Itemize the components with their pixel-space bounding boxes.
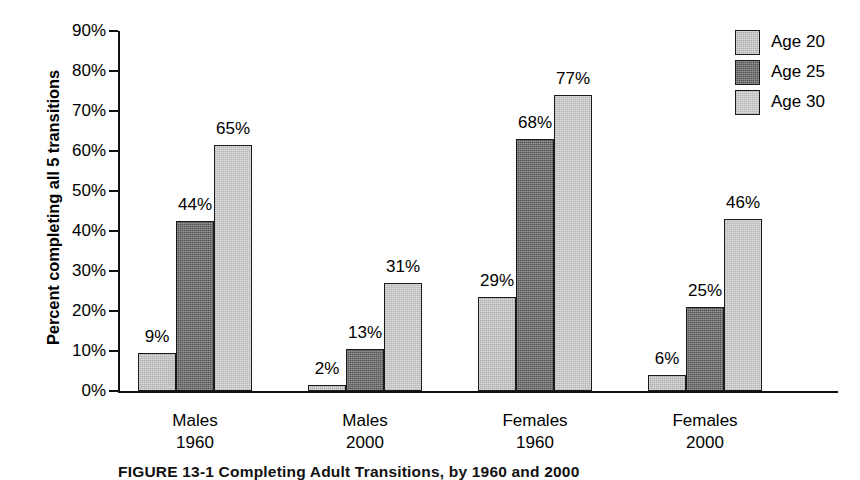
figure-container: Percent completing all 5 transitions 0%1… bbox=[0, 0, 860, 480]
y-axis-tick-mark bbox=[109, 110, 118, 112]
y-axis-tick-mark bbox=[109, 310, 118, 312]
x-axis-category-label-line: 1960 bbox=[502, 432, 567, 454]
bar-value-label: 44% bbox=[178, 195, 212, 215]
bar bbox=[686, 307, 724, 391]
chart-legend: Age 20Age 25Age 30 bbox=[735, 27, 825, 117]
bar-value-label: 13% bbox=[348, 323, 382, 343]
y-axis-tick-mark bbox=[109, 350, 118, 352]
bar-value-label: 31% bbox=[386, 257, 420, 277]
x-axis-category-label: Females1960 bbox=[502, 410, 567, 455]
x-axis-category-label-line: 2000 bbox=[672, 432, 737, 454]
bar bbox=[308, 385, 346, 391]
bar-value-label: 46% bbox=[726, 193, 760, 213]
bar bbox=[176, 221, 214, 391]
y-axis-tick-label: 20% bbox=[72, 301, 106, 321]
y-axis-tick-mark bbox=[109, 190, 118, 192]
x-axis-line bbox=[118, 391, 838, 393]
x-axis-category-label-line: 2000 bbox=[342, 432, 387, 454]
bar-value-label: 25% bbox=[688, 281, 722, 301]
y-axis-tick-label: 30% bbox=[72, 261, 106, 281]
x-axis-category-label-line: Females bbox=[672, 410, 737, 432]
y-axis-tick-label: 0% bbox=[81, 381, 106, 401]
bar bbox=[384, 283, 422, 391]
y-axis-tick-label: 60% bbox=[72, 141, 106, 161]
x-axis-category-label: Males2000 bbox=[342, 410, 387, 455]
legend-item[interactable]: Age 25 bbox=[735, 57, 825, 87]
bar bbox=[478, 297, 516, 391]
bar-value-label: 2% bbox=[315, 359, 340, 379]
legend-item[interactable]: Age 30 bbox=[735, 87, 825, 117]
bar bbox=[214, 145, 252, 391]
legend-swatch-icon bbox=[735, 30, 760, 55]
figure-caption: FIGURE 13-1 Completing Adult Transitions… bbox=[118, 463, 580, 480]
bar-value-label: 68% bbox=[518, 113, 552, 133]
bar-value-label: 29% bbox=[480, 271, 514, 291]
bar-value-label: 77% bbox=[556, 69, 590, 89]
bar-value-label: 6% bbox=[655, 349, 680, 369]
legend-swatch-icon bbox=[735, 90, 760, 115]
x-axis-category-label: Females2000 bbox=[672, 410, 737, 455]
y-axis-tick-label: 90% bbox=[72, 21, 106, 41]
bar-value-label: 65% bbox=[216, 119, 250, 139]
legend-label: Age 30 bbox=[771, 92, 825, 112]
x-axis-category-label-line: Males bbox=[342, 410, 387, 432]
y-axis-tick-label: 50% bbox=[72, 181, 106, 201]
x-axis-category-label-line: 1960 bbox=[172, 432, 217, 454]
y-axis-tick-mark bbox=[109, 30, 118, 32]
bar bbox=[516, 139, 554, 391]
x-axis-category-label: Males1960 bbox=[172, 410, 217, 455]
x-axis-category-label-line: Males bbox=[172, 410, 217, 432]
legend-label: Age 20 bbox=[771, 32, 825, 52]
y-axis-tick-label: 40% bbox=[72, 221, 106, 241]
y-axis-tick-mark bbox=[109, 390, 118, 392]
legend-swatch-icon bbox=[735, 60, 760, 85]
y-axis-line bbox=[118, 31, 120, 393]
plot-area: 0%10%20%30%40%50%60%70%80%90% 9%44%65%2%… bbox=[118, 31, 838, 393]
x-axis-category-label-line: Females bbox=[502, 410, 567, 432]
y-axis-tick-label: 10% bbox=[72, 341, 106, 361]
y-axis-tick-mark bbox=[109, 70, 118, 72]
legend-item[interactable]: Age 20 bbox=[735, 27, 825, 57]
bar bbox=[648, 375, 686, 391]
y-axis-tick-label: 70% bbox=[72, 101, 106, 121]
y-axis-tick-mark bbox=[109, 230, 118, 232]
bar bbox=[138, 353, 176, 391]
bar-value-label: 9% bbox=[145, 327, 170, 347]
legend-label: Age 25 bbox=[771, 62, 825, 82]
bar bbox=[724, 219, 762, 391]
y-axis-tick-mark bbox=[109, 150, 118, 152]
y-axis-title: Percent completing all 5 transitions bbox=[44, 18, 63, 398]
y-axis-tick-mark bbox=[109, 270, 118, 272]
y-axis-tick-label: 80% bbox=[72, 61, 106, 81]
bar bbox=[346, 349, 384, 391]
bar bbox=[554, 95, 592, 391]
